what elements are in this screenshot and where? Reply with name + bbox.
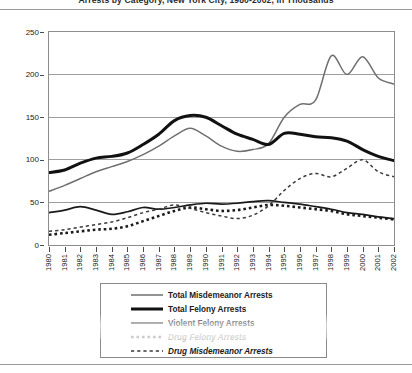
y-axis-tick-mark	[40, 160, 44, 161]
y-axis-tick-mark	[40, 32, 44, 33]
x-axis-tick-mark	[206, 247, 207, 252]
x-axis-tick-label: 2000	[359, 254, 367, 271]
legend-item: Total Misdemeanor Arrests	[131, 288, 273, 302]
legend-item-label: Drug Misdemeanor Arrests	[168, 347, 273, 356]
x-axis-tick-mark	[269, 247, 270, 252]
x-axis-tick-mark	[363, 247, 364, 252]
x-axis-tick-mark	[331, 247, 332, 252]
x-axis-tick-mark	[49, 247, 50, 252]
y-axis-tick-mark	[40, 75, 44, 76]
x-axis-tick-label: 1983	[92, 254, 100, 271]
chart-title: Arrests by Category, New York City, 1980…	[0, 0, 412, 6]
x-axis-tick-label: 1996	[296, 254, 304, 271]
legend-line-swatch	[131, 290, 163, 300]
legend-item: Drug Felony Arrests	[131, 330, 246, 344]
title-divider	[0, 9, 412, 10]
x-axis-tick-label: 2001	[374, 254, 382, 271]
legend-item-label: Total Felony Arrests	[168, 305, 246, 314]
x-axis-tick-label: 1993	[249, 254, 257, 271]
x-axis-tick-mark	[394, 247, 395, 252]
x-axis-tick-label: 1995	[280, 254, 288, 271]
series-line	[49, 205, 394, 235]
x-axis: 1980198119821983198419851986198719881989…	[48, 247, 395, 287]
legend-line-swatch	[131, 346, 163, 356]
x-axis-tick-label: 1984	[108, 254, 116, 271]
y-axis-tick-mark	[40, 202, 44, 203]
x-axis-tick-mark	[127, 247, 128, 252]
legend-item: Violent Felony Arrests	[131, 316, 254, 330]
legend-item-label: Drug Felony Arrests	[168, 333, 246, 342]
x-axis-tick-mark	[65, 247, 66, 252]
x-axis-tick-label: 1981	[61, 254, 69, 271]
chart-legend: Total Misdemeanor ArrestsTotal Felony Ar…	[100, 283, 327, 358]
x-axis-tick-mark	[300, 247, 301, 252]
x-axis-tick-label: 1994	[265, 254, 273, 271]
plot-area	[48, 31, 395, 246]
series-line	[49, 55, 394, 191]
legend-item: Drug Misdemeanor Arrests	[131, 344, 273, 358]
x-axis-tick-mark	[143, 247, 144, 252]
x-axis-tick-label: 2002	[390, 254, 398, 271]
x-axis-tick-label: 1988	[170, 254, 178, 271]
x-axis-tick-mark	[222, 247, 223, 252]
x-axis-tick-label: 1985	[123, 254, 131, 271]
legend-item-label: Total Misdemeanor Arrests	[168, 291, 273, 300]
y-axis-tick-label: 250	[26, 28, 39, 37]
series-line	[49, 201, 394, 219]
legend-item-label: Violent Felony Arrests	[168, 319, 254, 328]
y-axis-tick-mark	[40, 117, 44, 118]
x-axis-tick-label: 1980	[45, 254, 53, 271]
chart-figure: Arrests by Category, New York City, 1980…	[0, 0, 412, 373]
x-axis-tick-mark	[316, 247, 317, 252]
legend-line-swatch	[131, 304, 163, 314]
x-axis-tick-mark	[174, 247, 175, 252]
x-axis-tick-mark	[190, 247, 191, 252]
x-axis-tick-mark	[112, 247, 113, 252]
y-axis-tick-label: 150	[26, 113, 39, 122]
x-axis-tick-mark	[237, 247, 238, 252]
y-axis-tick-label: 0	[35, 241, 39, 250]
x-axis-tick-label: 1992	[233, 254, 241, 271]
x-axis-tick-mark	[253, 247, 254, 252]
legend-line-swatch	[131, 318, 163, 328]
x-axis-tick-mark	[284, 247, 285, 252]
legend-line-swatch	[131, 332, 163, 342]
x-axis-tick-mark	[80, 247, 81, 252]
x-axis-tick-mark	[159, 247, 160, 252]
x-axis-tick-mark	[96, 247, 97, 252]
x-axis-tick-label: 1987	[155, 254, 163, 271]
bottom-divider	[0, 364, 412, 365]
x-axis-tick-mark	[378, 247, 379, 252]
legend-item: Total Felony Arrests	[131, 302, 246, 316]
x-axis-tick-label: 1997	[312, 254, 320, 271]
x-axis-tick-label: 1989	[186, 254, 194, 271]
y-axis: 050100150200250	[14, 25, 44, 253]
x-axis-tick-label: 1982	[76, 254, 84, 271]
y-axis-tick-label: 200	[26, 70, 39, 79]
x-axis-tick-label: 1990	[202, 254, 210, 271]
x-axis-tick-label: 1999	[343, 254, 351, 271]
x-axis-tick-label: 1998	[327, 254, 335, 271]
x-axis-tick-label: 1991	[218, 254, 226, 271]
y-axis-tick-label: 100	[26, 155, 39, 164]
series-line	[49, 115, 394, 172]
y-axis-tick-label: 50	[30, 198, 39, 207]
plot-svg	[49, 32, 394, 245]
y-axis-tick-mark	[40, 245, 44, 246]
x-axis-tick-label: 1986	[139, 254, 147, 271]
x-axis-tick-mark	[347, 247, 348, 252]
